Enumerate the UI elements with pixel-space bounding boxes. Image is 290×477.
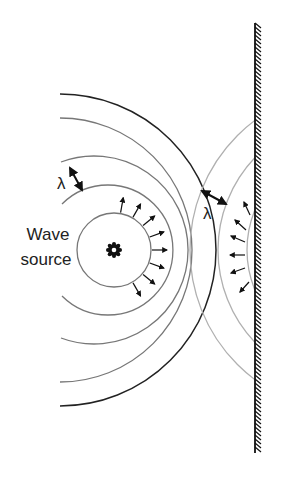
reflected-wavefront-1 [247, 145, 290, 355]
source-label-line2: source [20, 250, 71, 269]
wave-reflection-diagram: λ λ Wave source [0, 0, 290, 477]
source-label-line1: Wave [27, 225, 70, 244]
reflected-wavefronts [190, 88, 290, 412]
wavelength-indicator-left: λ [57, 168, 82, 193]
lambda-label: λ [203, 204, 212, 223]
incident-wavefronts [60, 94, 216, 406]
gear-icon [106, 242, 122, 258]
lambda-label: λ [57, 174, 66, 193]
reflected-wavefront-3 [190, 88, 290, 412]
propagation-arrows [121, 198, 167, 296]
reflected-wavefront-2 [218, 116, 290, 384]
reflecting-wall [255, 23, 261, 453]
wavefront-3 [61, 156, 188, 344]
